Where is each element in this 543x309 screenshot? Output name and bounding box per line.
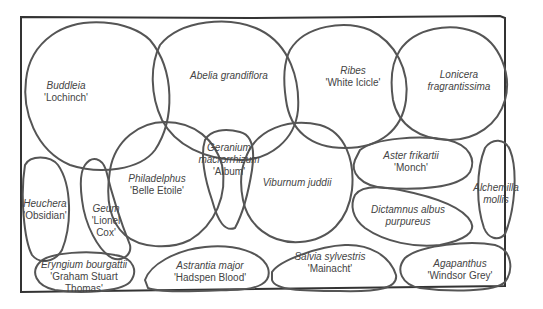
lonicera-name-2: fragrantissima bbox=[428, 81, 491, 93]
salvia-label: Salvia sylvestris 'Mainacht' bbox=[294, 251, 365, 275]
viburnum-label: Viburnum juddii bbox=[263, 177, 332, 189]
buddleia-label: Buddleia 'Lochinch' bbox=[44, 80, 88, 104]
geum-cultivar-2: Cox' bbox=[92, 227, 121, 239]
heuchera-name: Heuchera bbox=[23, 198, 66, 210]
dictamnus-label: Dictamnus albus purpureus bbox=[371, 204, 445, 228]
eryngium-cultivar-1: 'Graham Stuart bbox=[41, 271, 127, 283]
philadelphus-name: Philadelphus bbox=[128, 173, 185, 185]
geranium-cultivar: 'Album' bbox=[198, 166, 259, 178]
eryngium-name: Eryngium bourgattii bbox=[41, 259, 127, 271]
lonicera-label: Lonicera fragrantissima bbox=[428, 69, 491, 93]
eryngium-label: Eryngium bourgattii 'Graham Stuart Thoma… bbox=[41, 259, 127, 295]
salvia-name: Salvia sylvestris bbox=[294, 251, 365, 263]
aster-label: Aster frikartii 'Monch' bbox=[383, 150, 439, 174]
aster-cultivar: 'Monch' bbox=[383, 162, 439, 174]
astrantia-cultivar: 'Hadspen Blood' bbox=[174, 272, 246, 284]
dictamnus-name-1: Dictamnus albus bbox=[371, 204, 445, 216]
dictamnus-name-2: purpureus bbox=[371, 216, 445, 228]
ribes-cultivar: 'White Icicle' bbox=[326, 77, 381, 89]
ribes-label: Ribes 'White Icicle' bbox=[326, 65, 381, 89]
eryngium-cultivar-2: Thomas' bbox=[41, 283, 127, 295]
abelia-label: Abelia grandiflora bbox=[190, 70, 268, 82]
geum-label: Geum 'Lionel Cox' bbox=[92, 203, 121, 239]
buddleia-cultivar: 'Lochinch' bbox=[44, 92, 88, 104]
abelia-name: Abelia grandiflora bbox=[190, 70, 268, 82]
geum-name: Geum bbox=[92, 203, 121, 215]
alchemilla-name-2: mollis bbox=[473, 194, 519, 206]
ribes-name: Ribes bbox=[326, 65, 381, 77]
heuchera-cultivar: 'Obsidian' bbox=[23, 210, 66, 222]
alchemilla-name-1: Alchemilla bbox=[473, 182, 519, 194]
alchemilla-label: Alchemilla mollis bbox=[473, 182, 519, 206]
agapanthus-name: Agapanthus bbox=[428, 258, 493, 270]
heuchera-label: Heuchera 'Obsidian' bbox=[23, 198, 66, 222]
agapanthus-cultivar: 'Windsor Grey' bbox=[428, 270, 493, 282]
astrantia-label: Astrantia major 'Hadspen Blood' bbox=[174, 260, 246, 284]
philadelphus-label: Philadelphus 'Belle Etoile' bbox=[128, 173, 185, 197]
geranium-label: Geranium macrorrhizum 'Album' bbox=[198, 142, 259, 178]
aster-name: Aster frikartii bbox=[383, 150, 439, 162]
geranium-name-2: macrorrhizum bbox=[198, 154, 259, 166]
agapanthus-label: Agapanthus 'Windsor Grey' bbox=[428, 258, 493, 282]
geum-cultivar-1: 'Lionel bbox=[92, 215, 121, 227]
buddleia-name: Buddleia bbox=[44, 80, 88, 92]
abelia-circle bbox=[153, 22, 299, 160]
salvia-cultivar: 'Mainacht' bbox=[294, 263, 365, 275]
geranium-name-1: Geranium bbox=[198, 142, 259, 154]
astrantia-name: Astrantia major bbox=[174, 260, 246, 272]
viburnum-name: Viburnum juddii bbox=[263, 177, 332, 189]
philadelphus-cultivar: 'Belle Etoile' bbox=[128, 185, 185, 197]
lonicera-name-1: Lonicera bbox=[428, 69, 491, 81]
